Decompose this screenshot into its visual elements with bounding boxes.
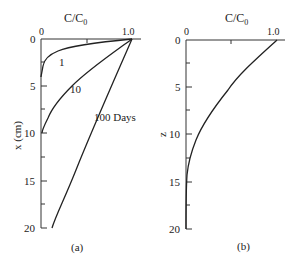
panel-a-y-tick-5: 5 <box>30 80 36 92</box>
curve-profile <box>186 40 277 229</box>
panel-b-y-tick-10: 10 <box>169 128 181 140</box>
curve-label-1: 1 <box>59 56 65 68</box>
panel-a-x-axis-title: C/C0 <box>64 11 87 27</box>
panel-a: C/C0 0 1.0 0 5 10 15 20 x (cm) 1 10 100 <box>11 11 141 254</box>
panel-b: C/C0 0 1.0 0 5 10 15 20 z (b) <box>156 11 285 253</box>
panel-b-x-axis-title: C/C0 <box>225 11 248 27</box>
panel-b-caption: (b) <box>237 240 250 253</box>
panel-a-x-tick-0: 0 <box>39 26 44 37</box>
panel-a-y-ticks <box>41 62 47 228</box>
curve-label-10: 10 <box>70 83 82 95</box>
panel-b-y-tick-0: 0 <box>175 34 181 46</box>
panel-b-y-tick-20: 20 <box>169 223 181 235</box>
panel-b-y-tick-5: 5 <box>175 81 181 93</box>
panel-b-y-ticks <box>186 63 192 229</box>
panel-a-y-tick-10: 10 <box>24 127 36 139</box>
panel-b-x-tick-1: 1.0 <box>267 26 280 37</box>
panel-a-caption: (a) <box>71 241 84 254</box>
panel-a-y-tick-0: 0 <box>30 33 36 45</box>
panel-b-y-axis-title: z <box>156 132 168 137</box>
panel-a-y-tick-20: 20 <box>24 222 36 234</box>
panel-a-x-tick-1: 1.0 <box>122 26 135 37</box>
panel-b-y-tick-15: 15 <box>169 176 181 188</box>
panel-b-x-tick-0: 0 <box>184 26 189 37</box>
panel-a-y-tick-15: 15 <box>24 175 36 187</box>
panel-a-y-axis-title: x (cm) <box>11 121 24 150</box>
figure: C/C0 0 1.0 0 5 10 15 20 x (cm) 1 10 100 <box>0 0 298 262</box>
curve-label-100-days: 100 Days <box>94 111 136 123</box>
